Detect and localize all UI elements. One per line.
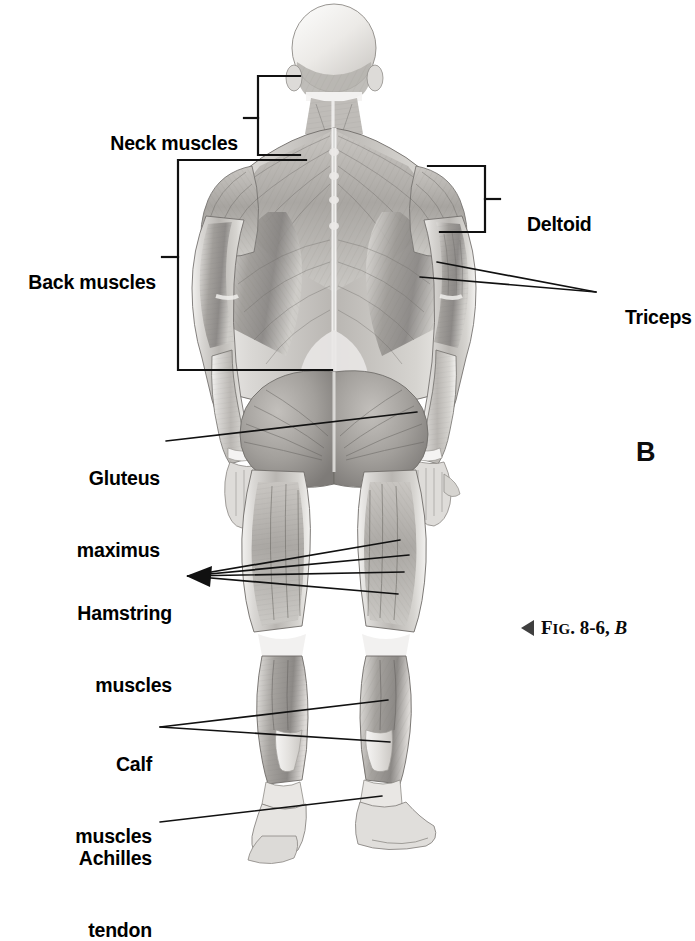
back-bracket (178, 160, 332, 370)
caption-fig-smallcaps: IG (553, 621, 571, 637)
label-hamstring-muscles-line2: muscles (0, 673, 172, 697)
panel-letter-b: B (636, 437, 656, 468)
label-neck-muscles-text: Neck muscles (110, 132, 238, 154)
achilles-leader (160, 796, 382, 822)
triceps-leader-1 (437, 262, 596, 292)
calf-leader-2 (160, 727, 390, 742)
deltoid-bracket (428, 166, 485, 232)
caption-fig-panel: B (614, 617, 627, 638)
label-back-muscles-text: Back muscles (28, 271, 156, 293)
label-achilles-tendon-line2: tendon (0, 918, 152, 941)
label-deltoid: Deltoid (506, 188, 666, 260)
label-back-muscles: Back muscles (0, 246, 156, 318)
triceps-leader-2 (420, 277, 596, 292)
label-deltoid-text: Deltoid (527, 213, 592, 235)
caption-fig-number: . 8-6, (570, 617, 614, 638)
label-calf-muscles-line1: Calf (0, 752, 152, 776)
label-hamstring-muscles-line1: Hamstring (0, 601, 172, 625)
label-triceps-text: Triceps (625, 306, 692, 328)
calf-leader-1 (160, 700, 388, 727)
label-triceps: Triceps (604, 281, 695, 353)
label-neck-muscles: Neck muscles (6, 107, 238, 179)
label-achilles-tendon: Achilles tendon (0, 798, 152, 941)
label-gluteus-maximus-line1: Gluteus (0, 466, 160, 490)
figure-caption: FIG. 8-6, B (521, 617, 627, 639)
hamstring-leader-1 (188, 540, 400, 576)
caption-triangle-icon (521, 620, 534, 636)
neck-bracket (258, 76, 300, 155)
hamstring-arrowhead (186, 566, 212, 587)
caption-fig-prefix: F (541, 617, 553, 638)
label-achilles-tendon-line1: Achilles (0, 846, 152, 870)
figure-caption-text: FIG. 8-6, B (541, 617, 627, 639)
gluteus-leader (166, 412, 417, 441)
hamstring-leader-4 (188, 576, 398, 594)
